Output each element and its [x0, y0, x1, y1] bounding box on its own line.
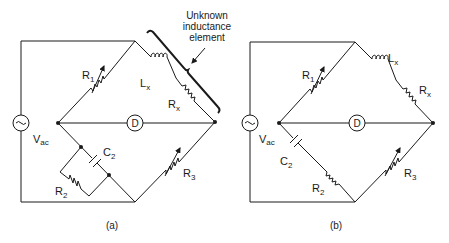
label-r2-b: R2	[312, 182, 325, 197]
variable-resistor-r1-icon	[279, 42, 355, 123]
label-vac-a: Vac	[33, 133, 49, 147]
resistor-rx-icon	[176, 78, 215, 122]
caption-b: (b)	[330, 220, 342, 231]
ac-source-icon	[13, 115, 29, 131]
label-vac-b: Vac	[259, 133, 275, 147]
variable-resistor-r1-icon	[58, 41, 135, 123]
label-lx-b: Lx	[388, 52, 398, 67]
variable-resistor-r3-icon	[355, 123, 433, 202]
variable-resistor-r3-icon	[135, 122, 215, 202]
node-dot	[277, 121, 281, 125]
inductor-lx-icon	[135, 41, 176, 78]
label-rx-a: Rx	[168, 98, 180, 113]
label-r1-a: R1	[82, 69, 95, 84]
node-dot	[213, 120, 217, 124]
bracket-unknown-element-icon	[147, 31, 220, 113]
label-c2-a: C2	[103, 146, 116, 161]
resistor-r2-icon	[60, 147, 109, 196]
label-r3-b: R3	[404, 167, 417, 182]
annotation-line1: Unknown	[186, 10, 228, 21]
resistor-rx-icon	[396, 80, 433, 123]
annotation-line2: inductance	[183, 21, 232, 32]
ac-source-icon	[242, 115, 258, 131]
wire-top-a	[21, 41, 135, 115]
junction-dot	[107, 173, 111, 177]
label-detector-a: D	[131, 118, 138, 129]
node-dot	[56, 121, 60, 125]
label-rx-b: Rx	[419, 84, 431, 99]
label-lx-a: Lx	[140, 77, 150, 92]
label-r2-a: R2	[55, 185, 68, 200]
capacitor-c2-icon	[58, 123, 135, 202]
label-r1-b: R1	[302, 69, 315, 84]
label-r3-a: R3	[183, 167, 196, 182]
label-c2-b: C2	[280, 155, 293, 170]
bridge-circuit-diagram: R1 Lx Rx Vac C2 R2 R3 D Unknown inductan…	[0, 0, 449, 243]
resistor-r2-icon	[323, 168, 355, 202]
label-detector-b: D	[353, 118, 360, 129]
caption-a: (a)	[106, 220, 118, 231]
node-dot	[431, 121, 435, 125]
annotation-line3: element	[189, 32, 225, 43]
junction-dot	[79, 145, 83, 149]
